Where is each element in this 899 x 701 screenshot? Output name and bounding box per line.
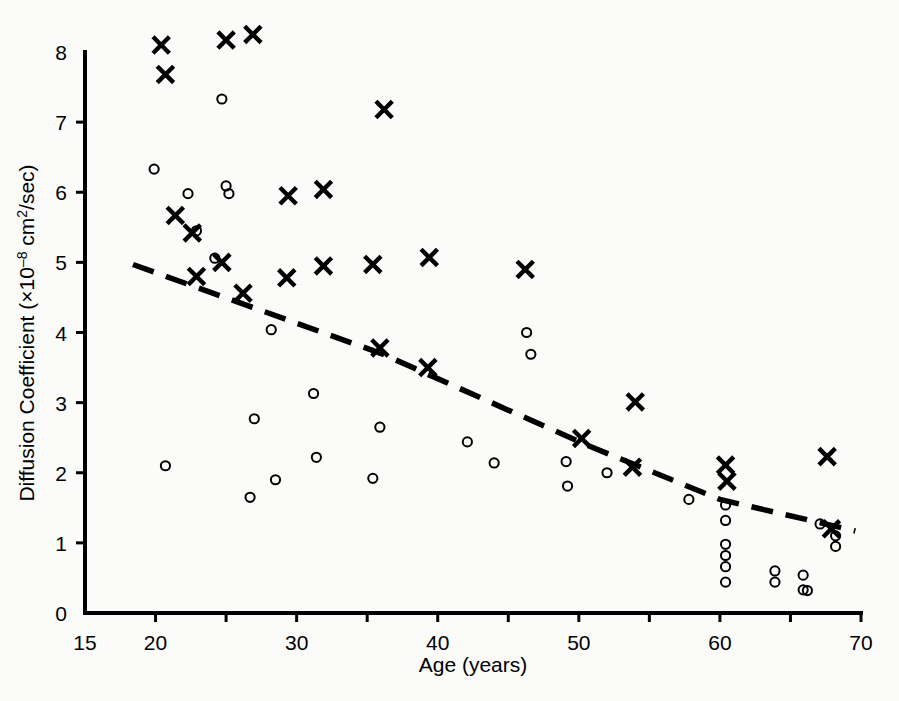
- cross-marker: [517, 261, 533, 277]
- cross-data-points: [153, 26, 840, 537]
- dashed-trend-line: [133, 264, 855, 530]
- y-axis-title-exponent: –8: [14, 251, 30, 267]
- circle-marker: [522, 328, 531, 337]
- scatter-plot-figure: 012345678 15203040506070 Age (years) Dif…: [0, 0, 899, 701]
- cross-marker: [157, 66, 173, 82]
- cross-marker: [167, 207, 183, 223]
- circle-marker: [267, 325, 276, 334]
- circle-marker: [721, 562, 730, 571]
- cross-marker: [719, 473, 735, 489]
- circle-marker: [161, 461, 170, 470]
- cross-marker: [315, 258, 331, 274]
- y-tick-label: 7: [55, 111, 67, 134]
- y-axis-title: Diffusion Coefficient (×10–8 cm2/sec): [14, 164, 38, 501]
- x-tick-label: 30: [285, 631, 308, 654]
- x-tick-label: 20: [144, 631, 167, 654]
- circle-marker: [490, 458, 499, 467]
- cross-marker: [279, 270, 295, 286]
- y-tick-label: 6: [55, 181, 67, 204]
- circle-data-points: [150, 94, 841, 595]
- cross-marker: [421, 249, 437, 265]
- cross-marker: [280, 188, 296, 204]
- circle-marker: [799, 571, 808, 580]
- x-tick-label: 60: [708, 631, 731, 654]
- circle-marker: [368, 474, 377, 483]
- x-axis-title: Age (years): [419, 653, 528, 676]
- circle-marker: [770, 566, 779, 575]
- chart-canvas: 012345678 15203040506070 Age (years) Dif…: [0, 0, 899, 701]
- trend-line-group: [133, 264, 855, 530]
- x-axis-tick-labels: 15203040506070: [73, 631, 872, 654]
- y-tick-label: 4: [55, 322, 67, 345]
- y-axis-title-suffix-a: cm: [15, 218, 38, 252]
- y-tick-label: 3: [55, 392, 67, 415]
- y-tick-label: 8: [55, 41, 67, 64]
- cross-marker: [420, 359, 436, 375]
- circle-marker: [312, 453, 321, 462]
- x-tick-label: 15: [73, 631, 96, 654]
- cross-marker: [153, 37, 169, 53]
- circle-marker: [602, 468, 611, 477]
- circle-marker: [250, 414, 259, 423]
- circle-marker: [721, 551, 730, 560]
- cross-marker: [365, 256, 381, 272]
- cross-marker: [315, 181, 331, 197]
- circle-marker: [309, 389, 318, 398]
- x-tick-label: 40: [426, 631, 449, 654]
- y-tick-label: 5: [55, 251, 67, 274]
- cross-marker: [627, 394, 643, 410]
- y-tick-label: 1: [55, 532, 67, 555]
- y-axis-title-superscript-two: 2: [14, 210, 30, 218]
- circle-marker: [245, 493, 254, 502]
- y-axis-tick-labels: 012345678: [55, 41, 67, 625]
- circle-marker: [684, 495, 693, 504]
- cross-marker: [245, 26, 261, 42]
- circle-marker: [831, 542, 840, 551]
- circle-marker: [721, 540, 730, 549]
- axes: [85, 52, 861, 613]
- cross-marker: [218, 32, 234, 48]
- circle-marker: [183, 189, 192, 198]
- circle-marker: [271, 475, 280, 484]
- cross-marker: [376, 101, 392, 117]
- x-tick-label: 70: [849, 631, 872, 654]
- circle-marker: [721, 578, 730, 587]
- cross-marker: [819, 448, 835, 464]
- y-axis-title-suffix-b: /sec): [15, 164, 38, 210]
- y-tick-label: 0: [55, 602, 67, 625]
- cross-marker: [235, 285, 251, 301]
- circle-marker: [770, 578, 779, 587]
- circle-marker: [375, 423, 384, 432]
- circle-marker: [562, 457, 571, 466]
- y-axis-title-prefix: Diffusion Coefficient (×10: [15, 267, 38, 501]
- circle-marker: [217, 94, 226, 103]
- x-tick-label: 50: [567, 631, 590, 654]
- y-tick-label: 2: [55, 462, 67, 485]
- circle-marker: [150, 165, 159, 174]
- circle-marker: [721, 516, 730, 525]
- circle-marker: [526, 350, 535, 359]
- circle-marker: [563, 481, 572, 490]
- cross-marker: [188, 268, 204, 284]
- cross-marker: [717, 457, 733, 473]
- circle-marker: [463, 437, 472, 446]
- svg-text:Diffusion Coefficient (×10–8 c: Diffusion Coefficient (×10–8 cm2/sec): [14, 164, 38, 501]
